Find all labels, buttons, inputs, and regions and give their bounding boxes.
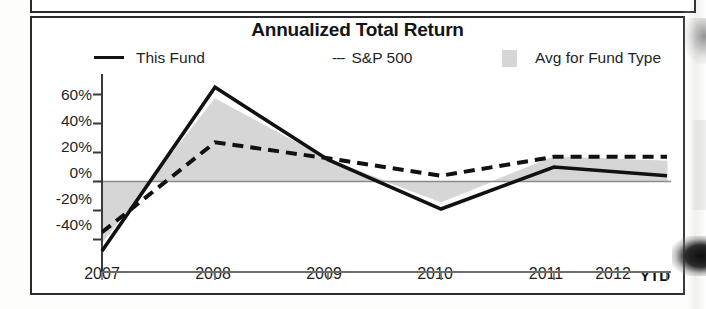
- plot-area: [32, 18, 687, 297]
- clipped-box-above: [30, 0, 696, 13]
- chart-svg: [32, 18, 687, 297]
- chart-frame: Annualized Total Return This Fund --- S&…: [30, 16, 685, 295]
